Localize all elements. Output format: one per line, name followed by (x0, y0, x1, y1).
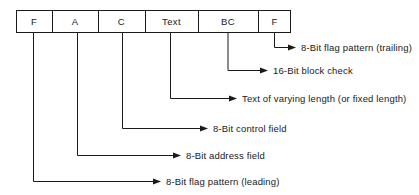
field-label-flag-trailing: F (271, 16, 277, 27)
callout-flag-leading: 8-Bit flag pattern (leading) (34, 33, 280, 187)
callout-text-leader (171, 33, 233, 99)
callout-control: 8-Bit control field (123, 33, 287, 134)
diagram-canvas: F A C Text BC F 8-Bit flag pattern (trai… (0, 0, 419, 195)
callout-address-arrow-icon (173, 152, 181, 158)
field-label-control: C (118, 16, 125, 27)
callout-text-label: Text of varying length (or fixed length) (242, 93, 406, 104)
frame-outline (17, 11, 291, 33)
callout-block-check-leader (228, 33, 263, 71)
frame-field-labels: F A C Text BC F (31, 16, 278, 27)
callout-flag-leading-arrow-icon (153, 178, 161, 184)
frame-boxes (17, 11, 291, 33)
callout-flag-trailing: 8-Bit flag pattern (trailing) (275, 33, 413, 53)
frame-format-diagram: F A C Text BC F 8-Bit flag pattern (trai… (0, 0, 419, 195)
field-label-text: Text (162, 16, 181, 27)
callout-block-check-arrow-icon (260, 67, 268, 73)
field-label-address: A (72, 16, 79, 27)
callout-flag-trailing-label: 8-Bit flag pattern (trailing) (301, 42, 412, 53)
callout-flag-leading-leader (34, 33, 157, 182)
callout-address-leader (78, 33, 177, 156)
callout-block-check: 16-Bit block check (228, 33, 353, 76)
callout-control-leader (123, 33, 204, 129)
field-label-flag-leading: F (31, 16, 37, 27)
callout-address-label: 8-Bit address field (186, 150, 265, 161)
callout-address: 8-Bit address field (78, 33, 265, 161)
callout-flag-trailing-arrow-icon (288, 44, 296, 50)
field-label-block-check: BC (221, 16, 235, 27)
callout-flag-leading-label: 8-Bit flag pattern (leading) (166, 176, 280, 187)
callout-control-label: 8-Bit control field (213, 123, 287, 134)
callout-text-arrow-icon (229, 95, 237, 101)
callout-control-arrow-icon (200, 125, 208, 131)
callout-block-check-label: 16-Bit block check (273, 65, 353, 76)
